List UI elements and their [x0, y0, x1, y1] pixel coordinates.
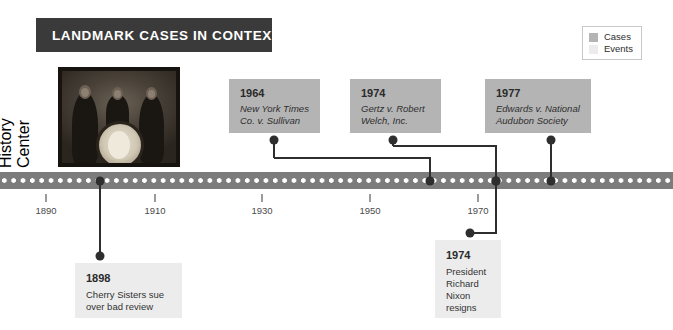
- axis-tick-label: 1890: [35, 205, 56, 216]
- legend-label-cases: Cases: [604, 31, 631, 43]
- axis-tick-label: 1910: [144, 205, 165, 216]
- axis-tick-label: 1970: [467, 205, 488, 216]
- photo-credit-line-2: History Center: [0, 66, 33, 168]
- axis-tick-mark: [477, 194, 479, 202]
- legend-item-events: Events: [589, 43, 633, 55]
- legend: Cases Events: [582, 26, 642, 60]
- timeline-infographic: LANDMARK CASES IN CONTEXT Cases Events P…: [0, 0, 673, 330]
- case-title: New York TimesCo. v. Sullivan: [240, 103, 310, 126]
- axis-tick-label: 1930: [251, 205, 272, 216]
- legend-label-events: Events: [604, 43, 633, 55]
- axis-tick-mark: [369, 194, 371, 202]
- case-connector-vertical: [550, 140, 552, 181]
- event-timeline-dot: [96, 176, 105, 185]
- event-connector-vertical: [495, 181, 497, 234]
- event-description: Cherry Sisters sueover bad review: [86, 289, 172, 313]
- case-timeline-dot: [547, 176, 556, 185]
- axis-tick-mark: [154, 194, 156, 202]
- case-box[interactable]: 1964New York TimesCo. v. Sullivan: [229, 79, 320, 133]
- case-year: 1977: [496, 87, 581, 100]
- event-description: PresidentRichardNixonresigns: [446, 266, 491, 314]
- case-connector-horizontal: [393, 145, 497, 147]
- event-box[interactable]: 1974PresidentRichardNixonresigns: [435, 240, 501, 318]
- case-timeline-dot: [426, 176, 435, 185]
- photo-image: [62, 71, 176, 163]
- drum-icon: [96, 121, 144, 163]
- legend-item-cases: Cases: [589, 31, 633, 43]
- case-title: Gertz v. RobertWelch, Inc.: [361, 103, 431, 126]
- event-box[interactable]: 1898Cherry Sisters sueover bad review: [75, 263, 182, 318]
- case-box[interactable]: 1977Edwards v. NationalAudubon Society: [485, 79, 591, 133]
- photo-credit: Photo courtesy of The History Center: [33, 66, 51, 168]
- case-box[interactable]: 1974Gertz v. RobertWelch, Inc.: [350, 79, 441, 133]
- axis-tick-label: 1950: [359, 205, 380, 216]
- legend-swatch-cases: [589, 33, 598, 42]
- axis-tick-mark: [261, 194, 263, 202]
- case-year: 1964: [240, 87, 310, 100]
- title-banner: LANDMARK CASES IN CONTEXT: [36, 18, 272, 52]
- case-year: 1974: [361, 87, 431, 100]
- event-connector-vertical: [99, 181, 101, 257]
- event-year: 1974: [446, 249, 491, 262]
- case-connector-horizontal: [274, 157, 431, 159]
- case-connector-vertical: [273, 140, 275, 158]
- page-title: LANDMARK CASES IN CONTEXT: [36, 28, 281, 43]
- event-year: 1898: [86, 272, 172, 285]
- legend-swatch-events: [589, 45, 598, 54]
- event-timeline-dot: [492, 176, 501, 185]
- historical-photo: [58, 67, 180, 167]
- case-title: Edwards v. NationalAudubon Society: [496, 103, 581, 126]
- axis-tick-mark: [45, 194, 47, 202]
- event-connector-horizontal: [470, 232, 497, 234]
